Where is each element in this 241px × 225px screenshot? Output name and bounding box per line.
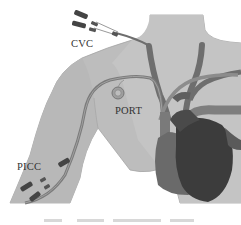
figure-caption [44,219,194,223]
picc-label: PICC [17,162,41,173]
caption-text-illegible [44,219,194,222]
vascular-access-diagram: CVC PORT PICC [0,0,241,225]
cvc-hub-icon [72,10,119,37]
cvc-label: CVC [71,39,93,50]
port-label: PORT [115,106,142,117]
cvc-line [94,22,148,45]
